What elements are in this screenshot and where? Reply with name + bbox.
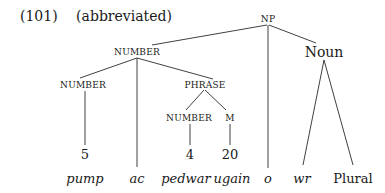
edge-number-number [80,58,137,78]
edge-phrase-number [186,90,204,110]
node-phrase: PHRASE [184,80,225,90]
edge-phrase-m [205,90,226,110]
edge-noun-wr [303,60,324,165]
node-m: M [225,113,234,123]
numeral-4: 4 [186,147,194,162]
numeral-5: 5 [81,147,89,162]
node-noun: Noun [305,44,344,60]
numeral-20: 20 [222,147,239,162]
edge-np-number [152,25,267,45]
leaf-pump: pump [66,171,103,186]
node-number-top: NUMBER [114,47,160,57]
leaf-wr: wr [293,171,310,186]
leaf-plural: Plural [333,171,372,186]
leaf-o: o [264,171,272,186]
leaf-ac: ac [129,171,144,186]
node-number-left: NUMBER [60,80,106,90]
leaf-ugain: ugain [214,171,251,186]
node-number-phrase: NUMBER [166,113,212,123]
edge-np-noun [269,25,316,43]
edge-noun-plural [324,60,353,165]
leaf-pedwar: pedwar [161,171,210,186]
tree-edges [0,0,385,193]
node-np: NP [261,14,275,24]
edge-number-phrase [137,58,213,79]
